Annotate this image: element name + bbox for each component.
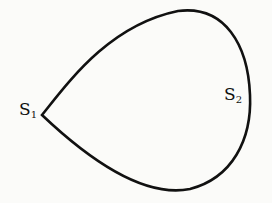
- label-s1: S1: [19, 101, 37, 120]
- label-s2: S2: [224, 86, 242, 105]
- diagram-canvas: S1 S2: [0, 0, 272, 203]
